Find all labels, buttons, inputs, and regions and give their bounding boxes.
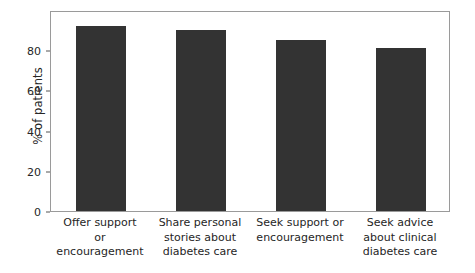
- y-tick-label: 20: [0, 165, 46, 178]
- plot-area: [50, 11, 450, 212]
- x-category-label: Share personal stories about diabetes ca…: [150, 216, 250, 260]
- y-tick-label: 0: [0, 206, 46, 219]
- y-axis-ticks: 020406080: [0, 0, 46, 273]
- y-tick-label: 60: [0, 85, 46, 98]
- bar: [76, 26, 126, 211]
- bar-chart-figure: % of patients 020406080 Offer support or…: [0, 0, 475, 273]
- bar: [376, 48, 426, 211]
- y-tick-label: 40: [0, 125, 46, 138]
- x-category-label: Seek advice about clinical diabetes care: [350, 216, 450, 260]
- bars-container: [51, 12, 449, 211]
- x-axis-category-labels: Offer support or encouragementShare pers…: [50, 216, 450, 273]
- bar: [176, 30, 226, 211]
- bar: [276, 40, 326, 211]
- y-tick-label: 80: [0, 45, 46, 58]
- x-category-label: Offer support or encouragement: [50, 216, 150, 260]
- x-category-label: Seek support or encouragement: [250, 216, 350, 245]
